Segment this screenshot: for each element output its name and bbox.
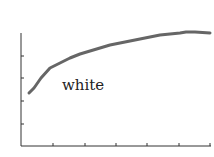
- y-axis: [21, 33, 24, 146]
- line-chart: white: [0, 0, 214, 157]
- data-line: [29, 32, 210, 93]
- series-label: white: [62, 76, 104, 94]
- x-axis: [21, 143, 211, 146]
